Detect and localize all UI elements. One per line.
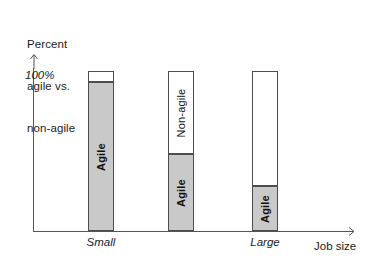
x-axis-tick-small: Small [76, 236, 126, 248]
y-axis-label-line-2: agile vs. [27, 79, 75, 93]
bar-medium-segment-nonagile: Non-agile [168, 71, 194, 154]
y-axis-line [33, 68, 34, 232]
bar-medium-agile-label: Agile [175, 179, 187, 207]
agile-vs-nonagile-chart: Percent agile vs. non-agile 100% Agile N… [0, 0, 387, 266]
bar-small-agile-label: Agile [95, 143, 107, 171]
x-axis-tick-large: Large [240, 236, 290, 248]
bar-large-agile-label: Agile [259, 195, 271, 223]
bar-small-segment-nonagile [88, 71, 114, 82]
y-axis-label-line-1: Percent [27, 37, 75, 51]
y-axis-tick-100-percent: 100% [25, 69, 54, 81]
bar-large: Agile [252, 71, 278, 231]
y-axis-label-line-3: non-agile [27, 121, 75, 135]
bar-medium: Non-agile Agile [168, 71, 194, 231]
x-axis-arrow-icon [341, 225, 355, 238]
bar-large-segment-agile: Agile [252, 186, 278, 231]
x-axis-line [33, 231, 345, 232]
bar-medium-segment-agile: Agile [168, 154, 194, 231]
bar-medium-nonagile-label: Non-agile [175, 88, 187, 137]
bar-small: Agile [88, 71, 114, 231]
y-axis-label: Percent agile vs. non-agile [27, 9, 75, 163]
y-axis-arrow-icon [29, 53, 41, 69]
x-axis-label: Job size [314, 240, 356, 252]
bar-large-segment-nonagile [252, 71, 278, 186]
bar-small-segment-agile: Agile [88, 82, 114, 231]
